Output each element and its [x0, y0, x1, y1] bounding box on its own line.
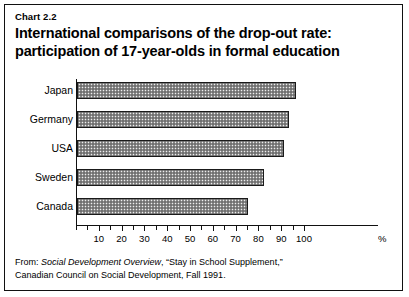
x-tick-5: [87, 226, 88, 230]
category-label-usa: USA: [7, 142, 73, 154]
x-tick-0: [76, 226, 77, 230]
x-tick-55: [201, 226, 202, 230]
x-tick-70: [236, 226, 237, 231]
source-line-1: From: Social Development Overview, “Stay…: [15, 256, 394, 269]
category-axis-labels: JapanGermanyUSASwedenCanada: [5, 77, 73, 222]
chart-number: Chart 2.2: [15, 11, 394, 23]
source-publication-title: Social Development Overview: [41, 257, 161, 267]
bar-canada: [77, 198, 248, 215]
x-tick-65: [224, 226, 225, 230]
x-tick-20: [122, 226, 123, 231]
x-tick-85: [270, 226, 271, 230]
bar-usa: [77, 140, 284, 157]
x-tick-45: [179, 226, 180, 230]
category-label-germany: Germany: [7, 113, 73, 125]
category-label-sweden: Sweden: [7, 171, 73, 183]
x-tick-50: [190, 226, 191, 231]
x-tick-75: [247, 226, 248, 230]
x-tick-60: [213, 226, 214, 231]
x-tick-80: [258, 226, 259, 231]
x-tick-40: [167, 226, 168, 231]
x-tick-95: [293, 226, 294, 230]
x-tick-15: [110, 226, 111, 230]
x-tick-10: [99, 226, 100, 231]
x-tick-35: [156, 226, 157, 230]
category-label-canada: Canada: [7, 200, 73, 212]
x-tick-25: [133, 226, 134, 230]
source-line-2: Canadian Council on Social Development, …: [15, 269, 394, 282]
bar-japan: [77, 82, 296, 99]
chart-header: Chart 2.2 International comparisons of t…: [15, 11, 394, 60]
x-axis-unit-label: %: [378, 233, 386, 244]
chart-title-line-2: participation of 17-year-olds in formal …: [15, 43, 394, 61]
bar-series: [77, 77, 404, 223]
chart-title-line-1: International comparisons of the drop-ou…: [15, 25, 394, 43]
source-suffix: , “Stay in School Supplement,”: [161, 257, 283, 267]
chart-figure: Chart 2.2 International comparisons of t…: [4, 4, 403, 291]
category-label-japan: Japan: [7, 84, 73, 96]
x-tick-label-100: 100: [291, 233, 317, 244]
chart-source-note: From: Social Development Overview, “Stay…: [15, 256, 394, 281]
x-tick-90: [281, 226, 282, 231]
bar-sweden: [77, 169, 264, 186]
bar-germany: [77, 111, 289, 128]
plot-area: JapanGermanyUSASwedenCanada 102030405060…: [5, 77, 404, 245]
source-prefix: From:: [15, 257, 41, 267]
x-tick-100: [304, 226, 305, 231]
x-tick-30: [144, 226, 145, 231]
